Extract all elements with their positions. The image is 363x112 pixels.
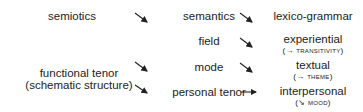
arrows-layer xyxy=(0,0,363,112)
arrow-icon xyxy=(135,13,147,22)
arrow-icon xyxy=(240,38,252,47)
arrow-icon xyxy=(240,63,252,72)
arrow-icon xyxy=(135,85,147,93)
arrow-icon xyxy=(135,62,147,71)
arrow-icon xyxy=(240,13,252,22)
